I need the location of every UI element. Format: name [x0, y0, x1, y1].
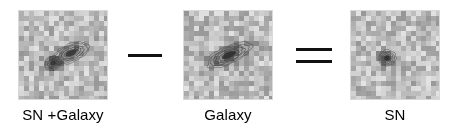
panel-label-sn-galaxy: SN +Galaxy [18, 106, 108, 124]
image-panel-galaxy [183, 10, 273, 100]
pixel-noise-canvas-sn-galaxy [19, 11, 108, 100]
panel-label-galaxy: Galaxy [183, 106, 273, 124]
minus-operator-icon [128, 46, 162, 64]
equals-bar-bottom [296, 60, 332, 63]
figure-sn-subtraction: SN +Galaxy Galaxy SN [0, 0, 459, 134]
image-panel-sn [350, 10, 440, 100]
image-panel-sn-galaxy [18, 10, 108, 100]
equals-bar-top [296, 48, 332, 51]
minus-bar [128, 54, 162, 57]
pixel-noise-canvas-galaxy [184, 11, 273, 100]
panel-label-sn: SN [350, 106, 440, 124]
equals-operator-icon [296, 44, 332, 68]
pixel-noise-canvas-sn [351, 11, 440, 100]
